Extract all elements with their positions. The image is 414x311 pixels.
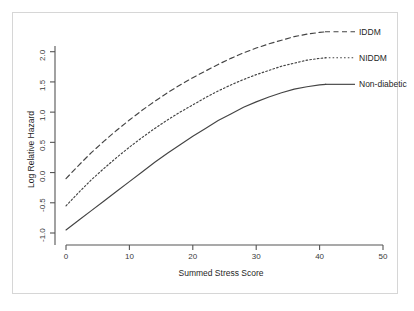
y-tick-label: -1.0	[38, 228, 47, 242]
legend-label-niddm: NIDDM	[359, 53, 387, 63]
x-tick-label: 30	[251, 252, 261, 261]
y-tick-label: 1.0	[38, 110, 47, 121]
figure-container: 01020304050 -1.0-0.50.00.51.01.52.0 Summ…	[0, 0, 414, 311]
series-line-iddm	[66, 32, 326, 179]
y-axis-tick-marks	[50, 52, 55, 233]
chart-series-curves	[66, 32, 326, 230]
y-tick-label: 0.0	[38, 170, 47, 181]
x-tick-label: 20	[188, 252, 198, 261]
chart-plot-area	[0, 0, 414, 311]
x-axis-tick-marks	[66, 245, 383, 250]
series-line-niddm	[66, 58, 326, 206]
y-axis-title: Log Relative Hazard	[26, 111, 36, 188]
x-tick-label: 40	[315, 252, 325, 261]
legend-label-non-diabetic: Non-diabetic	[359, 79, 407, 89]
x-tick-label: 0	[61, 252, 71, 261]
legend-line-samples	[325, 32, 355, 85]
legend-label-iddm: IDDM	[359, 27, 381, 37]
y-tick-label: 0.5	[38, 140, 47, 151]
x-axis-title: Summed Stress Score	[179, 268, 264, 278]
y-tick-label: 1.5	[38, 80, 47, 91]
y-tick-label: 2.0	[38, 50, 47, 61]
x-tick-label: 50	[378, 252, 388, 261]
y-tick-label: -0.5	[38, 198, 47, 212]
series-line-non-diabetic	[66, 84, 326, 230]
x-tick-label: 10	[124, 252, 134, 261]
